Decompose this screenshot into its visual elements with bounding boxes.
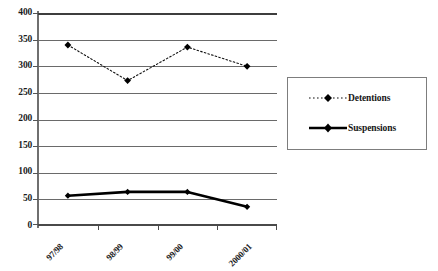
y-axis-tick-label: 300 — [2, 61, 32, 71]
y-axis-tick-label: 350 — [2, 35, 32, 45]
series-line-detentions — [68, 45, 247, 81]
legend-item-suspensions: Suspensions — [288, 119, 428, 137]
series-layer — [38, 13, 277, 226]
legend-item-detentions: Detentions — [288, 89, 428, 107]
y-axis-tick-label: 150 — [2, 141, 32, 151]
y-axis-tick-label: 200 — [2, 114, 32, 124]
series-line-suspensions — [68, 192, 247, 207]
line-chart: 400 350 300 250 200 150 100 50 0 — [0, 0, 438, 271]
series-markers-detentions — [65, 42, 251, 84]
y-axis-tick-label: 100 — [2, 167, 32, 177]
x-axis-tick-label: 98/99 — [104, 241, 125, 262]
legend-label: Suspensions — [348, 123, 396, 133]
y-axis-tick-label: 0 — [2, 221, 32, 231]
plot-area — [38, 13, 277, 226]
x-axis-tick-label: 99/00 — [164, 241, 185, 262]
legend-swatch-solid-diamond-icon — [308, 121, 348, 135]
legend: Detentions Suspensions — [287, 77, 427, 150]
legend-label: Detentions — [348, 93, 390, 103]
y-axis-tick-label: 400 — [2, 8, 32, 18]
y-axis-tick-label: 50 — [2, 194, 32, 204]
x-axis-tick-label: 97/98 — [44, 241, 65, 262]
y-axis-tick-label: 250 — [2, 88, 32, 98]
x-axis-tick-label: 2000/01 — [227, 241, 254, 268]
legend-swatch-dotted-diamond-icon — [308, 91, 348, 105]
